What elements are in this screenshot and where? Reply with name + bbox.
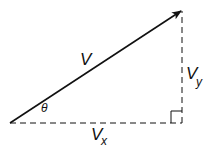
vector-v-arrow <box>10 11 181 123</box>
vx-subscript: x <box>100 134 108 148</box>
right-angle-marker <box>171 111 182 123</box>
angle-theta-label: θ <box>41 101 48 115</box>
vector-diagram: V θ V y V x <box>0 0 208 149</box>
vector-v-label: V <box>80 50 93 69</box>
vy-subscript: y <box>195 75 203 89</box>
